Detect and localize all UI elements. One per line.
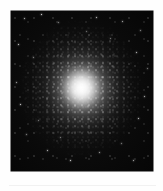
figure-separator-rule <box>9 185 156 186</box>
figure-caption <box>11 173 153 182</box>
field-star <box>99 152 100 153</box>
figure-page <box>0 0 163 191</box>
figure-block <box>0 0 163 178</box>
field-star <box>140 30 141 31</box>
field-star <box>122 21 123 22</box>
field-star <box>26 134 27 135</box>
field-star <box>58 22 59 23</box>
field-star <box>121 143 122 144</box>
field-star <box>144 96 145 97</box>
field-star <box>60 137 61 138</box>
field-star <box>86 31 87 32</box>
field-star <box>110 38 111 39</box>
field-star <box>147 68 148 69</box>
cluster-core <box>58 64 104 112</box>
field-star <box>24 18 25 19</box>
field-star <box>133 160 134 161</box>
field-star <box>33 57 34 58</box>
field-star <box>16 82 17 83</box>
globular-cluster-image <box>11 11 153 171</box>
field-star <box>38 120 39 121</box>
